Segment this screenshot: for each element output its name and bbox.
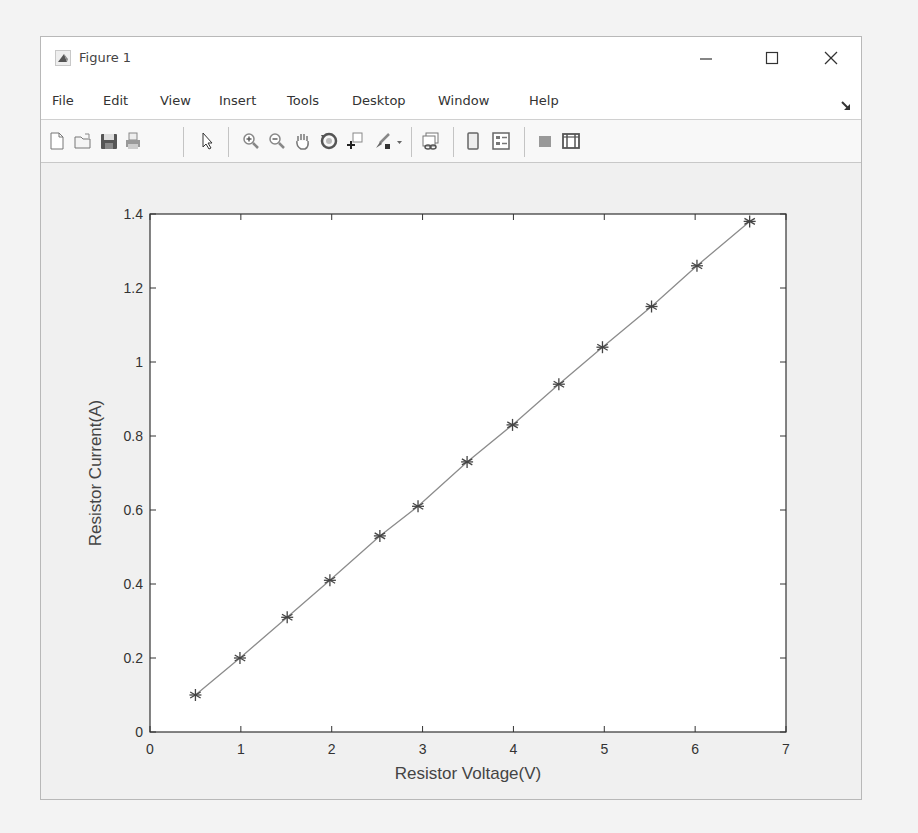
toolbar-separator xyxy=(183,127,184,157)
open-file-button[interactable] xyxy=(71,130,95,152)
x-axis-label: Resistor Voltage(V) xyxy=(373,764,563,784)
new-document-icon xyxy=(47,131,67,151)
title-bar[interactable]: Figure 1 xyxy=(41,37,861,83)
show-plot-tools-button[interactable] xyxy=(559,130,583,152)
insert-colorbar-button[interactable] xyxy=(461,130,485,152)
zoom-in-button[interactable] xyxy=(239,130,263,152)
y-tick-label: 1.4 xyxy=(124,206,144,222)
y-tick-label: 1.2 xyxy=(124,280,144,296)
minimize-button[interactable] xyxy=(686,43,726,73)
maximize-icon xyxy=(764,50,780,66)
rotate-icon xyxy=(319,131,339,151)
x-tick-label: 4 xyxy=(510,741,518,757)
print-figure-button[interactable] xyxy=(121,130,145,152)
link-plot-icon xyxy=(421,131,441,151)
show-tools-icon xyxy=(561,131,581,151)
brush-button[interactable] xyxy=(371,130,395,152)
dropdown-arrow-icon xyxy=(395,131,405,151)
close-button[interactable] xyxy=(811,43,851,73)
x-tick-label: 2 xyxy=(328,741,336,757)
x-tick-label: 7 xyxy=(782,741,790,757)
pointer-arrow-icon xyxy=(198,131,218,151)
edit-plot-button[interactable] xyxy=(196,130,220,152)
figure-window: Figure 1 File Edit View Insert Tools Des… xyxy=(40,36,862,800)
undock-arrow-icon xyxy=(841,101,851,111)
toolbar-separator xyxy=(411,127,412,157)
brush-dropdown-button[interactable] xyxy=(393,130,405,152)
menu-view[interactable]: View xyxy=(160,93,191,108)
line-plot[interactable]: 0123456700.20.40.60.811.21.4 xyxy=(41,163,863,799)
zoom-in-icon xyxy=(241,131,261,151)
colorbar-icon xyxy=(463,131,483,151)
y-tick-label: 0.2 xyxy=(124,650,144,666)
undock-button[interactable] xyxy=(841,97,851,115)
figure-toolbar xyxy=(41,119,861,163)
hand-icon xyxy=(293,131,313,151)
brush-icon xyxy=(373,131,393,151)
menu-file[interactable]: File xyxy=(52,93,74,108)
maximize-button[interactable] xyxy=(752,43,792,73)
legend-icon xyxy=(491,131,511,151)
data-cursor-icon xyxy=(345,131,365,151)
menu-bar: File Edit View Insert Tools Desktop Wind… xyxy=(41,83,861,119)
menu-edit[interactable]: Edit xyxy=(103,93,128,108)
toolbar-separator xyxy=(453,127,454,157)
figure-canvas: 0123456700.20.40.60.811.21.4 Resistor Cu… xyxy=(41,163,861,799)
x-tick-label: 5 xyxy=(600,741,608,757)
new-figure-button[interactable] xyxy=(45,130,69,152)
rotate-3d-button[interactable] xyxy=(317,130,341,152)
y-tick-label: 0.4 xyxy=(124,576,144,592)
zoom-out-icon xyxy=(267,131,287,151)
x-tick-label: 0 xyxy=(146,741,154,757)
menu-insert[interactable]: Insert xyxy=(219,93,256,108)
minimize-icon xyxy=(698,50,714,66)
x-tick-label: 3 xyxy=(419,741,427,757)
data-cursor-button[interactable] xyxy=(343,130,367,152)
y-axis-label: Resistor Current(A) xyxy=(86,388,106,558)
toolbar-separator xyxy=(228,127,229,157)
menu-tools[interactable]: Tools xyxy=(287,93,319,108)
matlab-figure-icon xyxy=(55,50,71,66)
y-tick-label: 0.6 xyxy=(124,502,144,518)
folder-open-icon xyxy=(73,131,93,151)
toolbar-separator xyxy=(524,127,525,157)
floppy-disk-icon xyxy=(99,131,119,151)
window-title: Figure 1 xyxy=(79,50,131,65)
close-icon xyxy=(823,50,839,66)
hide-tools-icon xyxy=(535,131,555,151)
link-plot-button[interactable] xyxy=(419,130,443,152)
pan-button[interactable] xyxy=(291,130,315,152)
hide-plot-tools-button[interactable] xyxy=(533,130,557,152)
y-tick-label: 1 xyxy=(135,354,143,370)
menu-window[interactable]: Window xyxy=(438,93,489,108)
y-tick-label: 0 xyxy=(135,724,143,740)
x-tick-label: 6 xyxy=(691,741,699,757)
x-tick-label: 1 xyxy=(237,741,245,757)
printer-icon xyxy=(123,131,143,151)
menu-help[interactable]: Help xyxy=(529,93,559,108)
zoom-out-button[interactable] xyxy=(265,130,289,152)
save-figure-button[interactable] xyxy=(97,130,121,152)
plot-area xyxy=(150,214,786,732)
menu-desktop[interactable]: Desktop xyxy=(352,93,406,108)
insert-legend-button[interactable] xyxy=(489,130,513,152)
y-tick-label: 0.8 xyxy=(124,428,144,444)
